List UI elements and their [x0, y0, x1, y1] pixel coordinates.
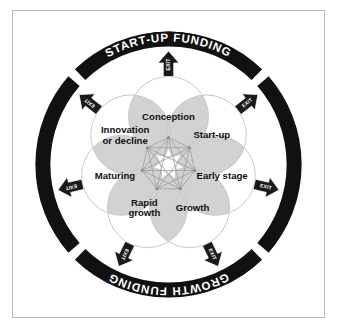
- exit-arrow-down[interactable]: EXIT: [109, 239, 139, 271]
- mesh-node: [179, 187, 182, 190]
- mesh-node: [141, 169, 144, 172]
- mesh-node: [188, 146, 191, 149]
- exit-arrow-label: EXIT: [165, 59, 171, 71]
- stage-label-growth: Growth: [176, 202, 210, 213]
- exit-arrow-right[interactable]: EXIT: [252, 174, 282, 200]
- stage-label-maturing: Maturing: [95, 170, 136, 181]
- ring-segment-growth-funding: [80, 254, 257, 290]
- mesh-node: [167, 136, 170, 139]
- diagram-frame: START-UP FUNDING OPERATIONAL FUNDING GRO…: [0, 0, 337, 329]
- mesh-node: [155, 187, 158, 190]
- ring-segment-operational-funding-left: [43, 81, 74, 248]
- lifecycle-wheel-diagram: START-UP FUNDING OPERATIONAL FUNDING GRO…: [0, 0, 337, 329]
- stage-label-early-stage: Early stage: [196, 170, 247, 181]
- exit-arrow-down-right[interactable]: EXIT: [198, 239, 228, 271]
- mesh-node: [146, 146, 149, 149]
- stage-label-innovation-or-decline: Innovationor decline: [101, 124, 150, 146]
- stage-label-start-up: Start-up: [193, 129, 230, 140]
- exit-arrow-down-left[interactable]: EXIT: [56, 174, 86, 200]
- stage-label-conception: Conception: [142, 111, 195, 122]
- exit-arrow-up[interactable]: EXIT: [158, 51, 179, 77]
- stage-label-rapid-growth: Rapidgrowth: [128, 197, 160, 219]
- ring-segment-operational-funding-right: [263, 81, 294, 248]
